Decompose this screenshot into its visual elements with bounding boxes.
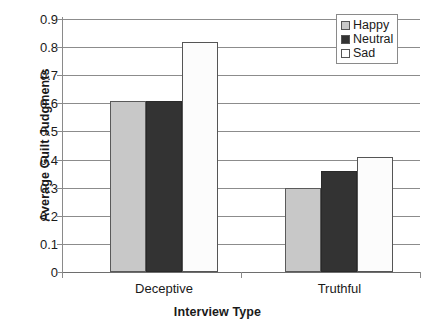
x-axis-category-label: Deceptive <box>104 281 224 296</box>
bar-truthful-neutral <box>321 171 357 272</box>
y-axis-tick-label: 0.3 <box>26 181 58 194</box>
y-axis-tick-mark <box>57 131 63 132</box>
x-axis-title: Interview Type <box>0 305 435 319</box>
legend-label: Sad <box>353 47 375 60</box>
y-axis-tick-label: 0.4 <box>26 153 58 166</box>
x-axis-tick-mark <box>420 272 421 278</box>
legend-label: Neutral <box>353 33 393 46</box>
legend-item-sad: Sad <box>341 46 393 60</box>
bar-deceptive-sad <box>182 42 218 273</box>
bar-deceptive-happy <box>110 101 146 272</box>
y-axis-tick-label: 0.1 <box>26 237 58 250</box>
y-axis-tick-labels: 0.90.80.70.60.50.40.30.20.10 <box>26 19 58 272</box>
y-axis-tick-mark <box>57 216 63 217</box>
y-axis-tick-mark <box>57 244 63 245</box>
y-axis-tick-mark <box>57 19 63 20</box>
legend-label: Happy <box>353 19 389 32</box>
x-axis-category-label: Truthful <box>279 281 399 296</box>
y-axis-tick-mark <box>57 47 63 48</box>
y-axis-tick-mark <box>57 103 63 104</box>
y-axis-tick-label: 0.6 <box>26 97 58 110</box>
bar-deceptive-neutral <box>146 101 182 272</box>
y-axis-tick-mark <box>57 188 63 189</box>
y-axis-tick-mark <box>57 272 63 273</box>
x-axis-tick-mark <box>241 272 242 278</box>
y-axis-tick-label: 0.2 <box>26 209 58 222</box>
bar-chart: Average Guilt Judgments 0.90.80.70.60.50… <box>0 0 435 335</box>
legend-item-happy: Happy <box>341 18 393 32</box>
y-axis-tick-label: 0.9 <box>26 13 58 26</box>
legend: HappyNeutralSad <box>336 14 398 64</box>
legend-swatch-neutral <box>341 35 350 44</box>
legend-swatch-sad <box>341 49 350 58</box>
y-axis-tick-mark <box>57 75 63 76</box>
y-axis-tick-label: 0.5 <box>26 125 58 138</box>
legend-item-neutral: Neutral <box>341 32 393 46</box>
legend-swatch-happy <box>341 21 350 30</box>
bar-truthful-sad <box>357 157 393 272</box>
bar-truthful-happy <box>285 188 321 272</box>
y-axis-tick-mark <box>57 160 63 161</box>
y-axis-tick-label: 0.8 <box>26 41 58 54</box>
y-axis-tick-label: 0.7 <box>26 69 58 82</box>
y-axis-tick-label: 0 <box>26 266 58 279</box>
